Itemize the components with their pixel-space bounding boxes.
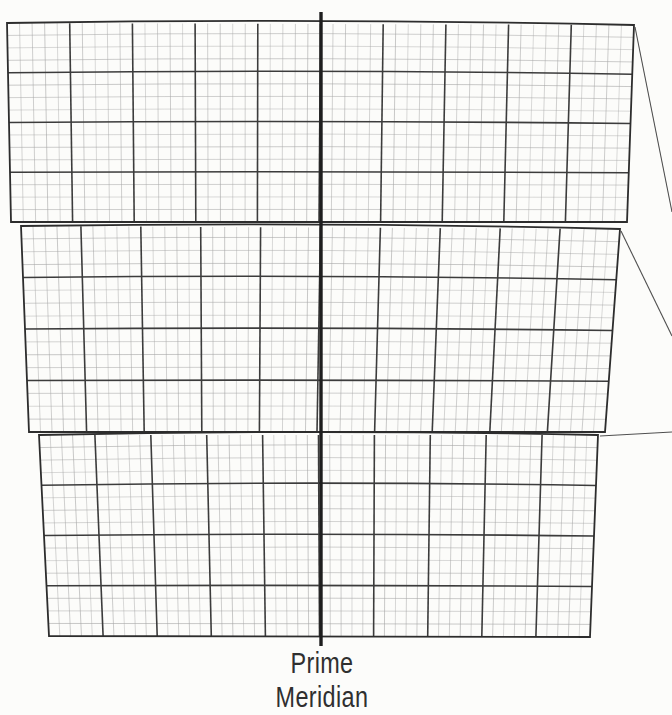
prime-meridian-label: Prime Meridian (276, 646, 369, 714)
leader-line-2 (621, 231, 672, 336)
zone-band-3-major-grid (42, 435, 597, 637)
prime-meridian-label-line2: Meridian (276, 680, 369, 714)
leader-line-1 (635, 27, 672, 212)
projection-zones-diagram (0, 0, 672, 715)
prime-meridian-label-line1: Prime (276, 646, 369, 680)
figure-canvas: Prime Meridian (0, 0, 672, 715)
leader-line-3 (600, 432, 672, 436)
zone-band-3 (39, 432, 598, 637)
